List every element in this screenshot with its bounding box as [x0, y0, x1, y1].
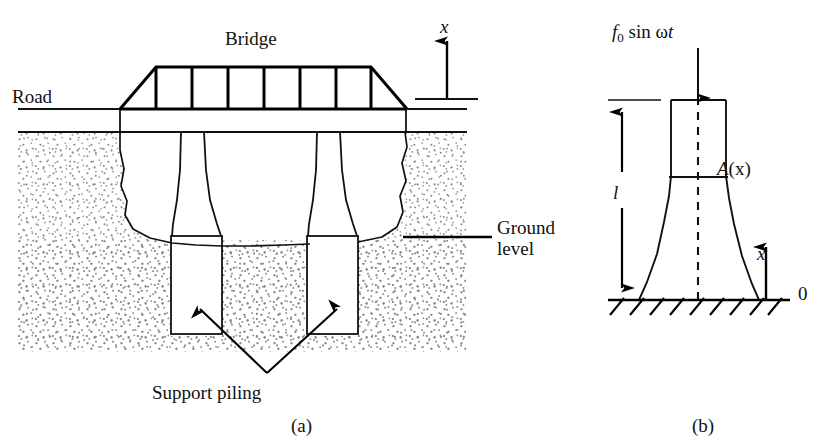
bridge-label: Bridge: [225, 28, 277, 49]
force-time: t: [668, 21, 673, 42]
figure-root: Bridge Road Ground level Support piling …: [0, 0, 840, 445]
origin-label: 0: [798, 283, 808, 304]
force-label: f0 sin ωt: [612, 21, 673, 45]
ground-level-line2: level: [497, 238, 534, 259]
axis-x-label-panel-a: x: [440, 16, 448, 37]
excavation-outline: [120, 132, 222, 246]
ground-level-label: Ground level: [497, 217, 555, 260]
area-label: A(x): [717, 158, 751, 179]
soil-region: [18, 132, 468, 354]
support-piling-label: Support piling: [152, 382, 261, 403]
axis-x-panel-a: [415, 41, 478, 99]
ground-level-line1: Ground: [497, 217, 555, 238]
area-arg: (x): [729, 158, 751, 179]
force-sin: sin: [624, 21, 656, 42]
panel-b: [608, 48, 790, 315]
bridge-truss: [120, 67, 407, 109]
area-symbol: A: [717, 158, 729, 179]
fixed-base: [608, 298, 790, 315]
figure-canvas: [0, 0, 840, 445]
length-label: l: [613, 182, 618, 203]
force-omega: ω: [655, 21, 668, 42]
panel-a: [18, 41, 492, 373]
caption-a: (a): [291, 415, 312, 436]
road-label: Road: [12, 86, 52, 107]
axis-x-label-panel-b: x: [757, 243, 765, 264]
caption-b: (b): [692, 415, 714, 436]
